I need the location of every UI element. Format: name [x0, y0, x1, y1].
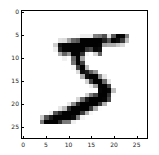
x-tick-mark	[69, 136, 70, 139]
y-tick-label: 15	[11, 78, 19, 84]
y-tick-label: 20	[11, 101, 19, 107]
y-tick-label: 0	[15, 9, 19, 15]
x-tick-mark	[114, 136, 115, 139]
y-tick-mark	[21, 104, 24, 105]
y-tick-label: 25	[11, 124, 19, 130]
y-tick-label: 5	[15, 32, 19, 38]
digit-image	[22, 11, 147, 138]
y-tick-label: 10	[11, 55, 19, 61]
x-tick-mark	[137, 136, 138, 139]
x-tick-label: 5	[44, 142, 48, 148]
x-tick-mark	[23, 136, 24, 139]
x-tick-label: 10	[65, 142, 73, 148]
x-tick-label: 0	[21, 142, 25, 148]
y-tick-mark	[21, 12, 24, 13]
image-axes	[21, 10, 148, 139]
x-tick-mark	[91, 136, 92, 139]
x-tick-label: 25	[133, 142, 141, 148]
y-tick-mark	[21, 81, 24, 82]
x-tick-label: 15	[87, 142, 95, 148]
pixel-cell	[143, 133, 147, 138]
y-tick-mark	[21, 35, 24, 36]
x-tick-mark	[46, 136, 47, 139]
x-tick-label: 20	[110, 142, 118, 148]
y-tick-mark	[21, 127, 24, 128]
y-tick-mark	[21, 58, 24, 59]
